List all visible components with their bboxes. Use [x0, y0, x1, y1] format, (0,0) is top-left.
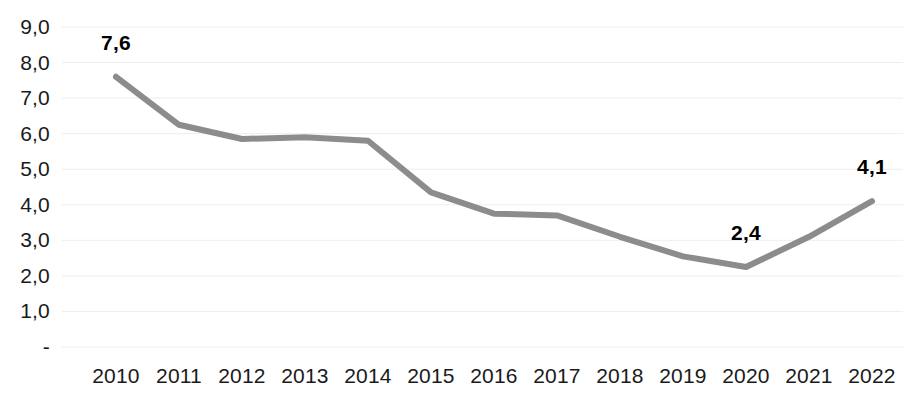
x-axis-tick-label: 2019	[659, 364, 707, 388]
line-chart: -1,02,03,04,05,06,07,08,09,0 20102011201…	[0, 0, 923, 409]
x-axis-tick-label: 2016	[470, 364, 518, 388]
data-point-label: 4,1	[857, 155, 887, 179]
data-point-label: 2,4	[731, 221, 761, 245]
data-point-label: 7,6	[101, 31, 131, 55]
x-axis-tick-label: 2012	[218, 364, 266, 388]
x-axis: 2010201120122013201420152016201720182019…	[0, 0, 923, 409]
x-axis-tick-label: 2015	[407, 364, 455, 388]
x-axis-tick-label: 2011	[156, 364, 202, 388]
x-axis-tick-label: 2017	[533, 364, 581, 388]
x-axis-tick-label: 2013	[281, 364, 329, 388]
x-axis-tick-label: 2021	[785, 364, 833, 388]
x-axis-tick-label: 2022	[848, 364, 896, 388]
x-axis-tick-label: 2018	[596, 364, 644, 388]
x-axis-tick-label: 2014	[344, 364, 392, 388]
x-axis-tick-label: 2010	[92, 364, 140, 388]
x-axis-tick-label: 2020	[722, 364, 770, 388]
